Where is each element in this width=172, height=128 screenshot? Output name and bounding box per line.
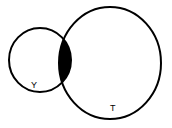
venn-diagram: Y T xyxy=(0,0,172,128)
label-t: T xyxy=(110,103,116,113)
label-y: Y xyxy=(31,80,37,90)
